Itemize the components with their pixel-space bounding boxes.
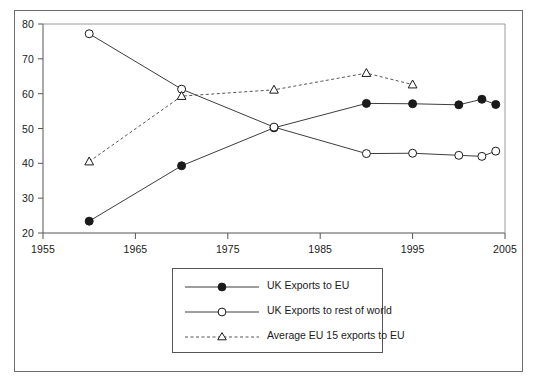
chart-legend: UK Exports to EU UK Exports to rest of w… bbox=[172, 268, 383, 353]
data-point-1-6 bbox=[478, 152, 486, 160]
legend-swatch-filled-circle bbox=[183, 277, 261, 297]
y-tick-label-50: 50 bbox=[14, 123, 34, 135]
chart-series-layer bbox=[85, 30, 500, 225]
data-point-0-5 bbox=[455, 101, 463, 109]
x-tick-label-1975: 1975 bbox=[208, 243, 248, 255]
y-tick-label-20: 20 bbox=[14, 227, 34, 239]
data-point-2-2 bbox=[270, 85, 279, 93]
data-point-1-3 bbox=[362, 150, 370, 158]
series-line-0 bbox=[89, 99, 496, 221]
x-tick-label-1955: 1955 bbox=[23, 243, 63, 255]
data-point-0-7 bbox=[492, 100, 500, 108]
series-1 bbox=[85, 30, 500, 161]
data-point-1-7 bbox=[492, 147, 500, 155]
data-point-1-0 bbox=[85, 30, 93, 38]
data-point-0-0 bbox=[85, 217, 93, 225]
x-tick-label-1985: 1985 bbox=[300, 243, 340, 255]
y-tick-label-60: 60 bbox=[14, 88, 34, 100]
data-point-0-6 bbox=[478, 95, 486, 103]
data-point-1-4 bbox=[409, 149, 417, 157]
legend-entry-uk-exports-to-eu: UK Exports to EU bbox=[173, 277, 384, 297]
legend-entry-average-eu-15-exports-to-eu: Average EU 15 exports to EU bbox=[173, 327, 384, 347]
data-point-0-4 bbox=[409, 100, 417, 108]
series-line-1 bbox=[89, 34, 496, 157]
y-tick-label-80: 80 bbox=[14, 18, 34, 30]
data-point-1-5 bbox=[455, 151, 463, 159]
legend-label-uk-exports-to-eu: UK Exports to EU bbox=[267, 279, 349, 291]
y-tick-label-30: 30 bbox=[14, 192, 34, 204]
series-0 bbox=[85, 95, 500, 225]
data-point-2-4 bbox=[408, 80, 417, 88]
legend-label-average-eu-15-exports-to-eu: Average EU 15 exports to EU bbox=[267, 329, 405, 341]
data-point-0-3 bbox=[362, 99, 370, 107]
data-point-2-0 bbox=[85, 157, 94, 165]
y-tick-label-40: 40 bbox=[14, 157, 34, 169]
y-tick-label-70: 70 bbox=[14, 53, 34, 65]
data-point-0-1 bbox=[178, 162, 186, 170]
x-tick-label-1965: 1965 bbox=[115, 243, 155, 255]
legend-entry-uk-exports-to-rest-of-world: UK Exports to rest of world bbox=[173, 302, 384, 322]
data-point-2-3 bbox=[362, 69, 371, 77]
legend-swatch-open-triangle bbox=[183, 327, 261, 347]
chart-figure: 80 70 60 50 40 30 20 1955 1965 1975 1985… bbox=[0, 0, 537, 382]
data-point-1-2 bbox=[270, 123, 278, 131]
x-tick-label-2005: 2005 bbox=[485, 243, 525, 255]
legend-label-uk-exports-to-rest-of-world: UK Exports to rest of world bbox=[267, 304, 392, 316]
x-tick-label-1995: 1995 bbox=[393, 243, 433, 255]
legend-swatch-open-circle bbox=[183, 302, 261, 322]
